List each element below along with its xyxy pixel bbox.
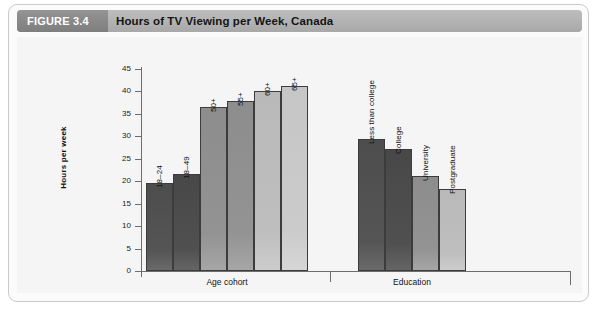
bar-category-label: 18–24: [155, 165, 164, 188]
y-axis-tick: [135, 69, 142, 70]
x-axis-line: [141, 271, 571, 272]
bar-category-label: 65+: [290, 77, 299, 91]
figure-frame: FIGURE 3.4 Hours of TV Viewing per Week,…: [8, 4, 589, 302]
y-axis-tick: [135, 159, 142, 160]
bar: [358, 139, 385, 271]
bar-category-label: University: [421, 145, 430, 181]
y-axis-tick-label: 20: [99, 177, 131, 185]
y-axis-tick-label: 0: [99, 267, 131, 275]
bar: [281, 86, 308, 271]
bar: [254, 91, 281, 271]
bar: [385, 149, 412, 271]
bar: [439, 189, 466, 271]
chart-plot-area: Hours per week 051015202530354045 18–241…: [17, 37, 582, 293]
y-axis-tick-label: 25: [99, 155, 131, 163]
y-axis-tick-label: 40: [99, 87, 131, 95]
bar: [227, 101, 254, 271]
y-axis-tick: [135, 226, 142, 227]
y-axis-tick: [135, 271, 142, 272]
y-axis-tick: [135, 136, 142, 137]
y-axis-tick-label: 35: [99, 110, 131, 118]
y-axis-tick: [135, 91, 142, 92]
bar: [412, 176, 439, 271]
y-axis-tick-label: 45: [99, 65, 131, 73]
y-axis-line: [141, 67, 142, 277]
y-axis-tick-label: 15: [99, 200, 131, 208]
figure-number-tag: FIGURE 3.4: [17, 10, 108, 32]
figure-title-band: FIGURE 3.4 Hours of TV Viewing per Week,…: [17, 10, 582, 32]
y-axis-tick: [135, 114, 142, 115]
bar-category-label: 55+: [236, 92, 245, 106]
bar: [146, 183, 173, 271]
y-axis-tick-label: 5: [99, 245, 131, 253]
y-axis-tick-label: 10: [99, 222, 131, 230]
bar-category-label: College: [394, 126, 403, 154]
bar-category-label: 50+: [209, 98, 218, 112]
y-axis-tick: [135, 249, 142, 250]
y-axis-title: Hours per week: [59, 98, 68, 218]
x-axis-group-label: Age cohort: [146, 277, 308, 287]
bar: [173, 174, 200, 271]
bar-category-label: 60+: [263, 82, 272, 96]
y-axis-tick: [135, 181, 142, 182]
bar-category-label: Less than college: [367, 81, 376, 145]
bar: [200, 107, 227, 271]
y-axis-tick-label: 30: [99, 132, 131, 140]
x-axis-group-label: Education: [358, 277, 466, 287]
bar-category-label: Postgraduate: [448, 145, 457, 194]
figure-title-text: Hours of TV Viewing per Week, Canada: [116, 10, 333, 32]
group-separator-tick: [330, 271, 331, 282]
x-axis-end-tick: [570, 271, 571, 285]
y-axis-tick: [135, 204, 142, 205]
bar-category-label: 18–49: [182, 157, 191, 180]
